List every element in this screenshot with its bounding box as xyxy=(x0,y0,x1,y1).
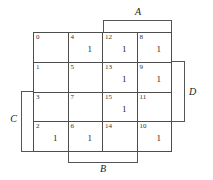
kmap-cell[interactable]: 5 xyxy=(69,63,104,93)
kmap-cell-value: 1 xyxy=(138,133,172,144)
kmap-cell-index: 13 xyxy=(105,63,112,72)
kmap-cell-index: 6 xyxy=(71,122,75,131)
kmap-cell-index: 7 xyxy=(71,93,75,102)
kmap-cell-value: 1 xyxy=(103,104,137,115)
kmap-cell-value: 1 xyxy=(138,74,172,85)
kmap-cell-value: 1 xyxy=(34,133,68,144)
kmap-cell-index: 12 xyxy=(105,33,112,42)
kmap-cell[interactable]: 3 xyxy=(34,93,69,123)
kmap-cell[interactable]: 1 xyxy=(34,63,69,93)
kmap-cell[interactable]: 0 xyxy=(34,33,69,63)
kmap-cell-value: 1 xyxy=(103,44,137,55)
karnaugh-map-diagram: A D C B 0 4 1 12 1 8 1 1 5 xyxy=(0,0,213,180)
bracket-label-a: A xyxy=(131,6,145,17)
bracket-variable-d xyxy=(171,61,185,122)
kmap-cell[interactable]: 9 1 xyxy=(138,63,173,93)
kmap-cell[interactable]: 2 1 xyxy=(34,122,69,152)
kmap-cell-index: 14 xyxy=(105,122,112,131)
kmap-cell-index: 2 xyxy=(36,122,40,131)
kmap-cell[interactable]: 11 xyxy=(138,93,173,123)
kmap-cell-index: 3 xyxy=(36,93,40,102)
bracket-variable-b xyxy=(68,151,138,163)
kmap-cell-index: 8 xyxy=(140,33,144,42)
kmap-cell[interactable]: 8 1 xyxy=(138,33,173,63)
kmap-cell-value: 1 xyxy=(69,44,103,55)
bracket-label-c: C xyxy=(8,113,19,124)
kmap-cell[interactable]: 12 1 xyxy=(103,33,138,63)
bracket-label-d: D xyxy=(187,86,198,97)
kmap-cell[interactable]: 4 1 xyxy=(69,33,104,63)
kmap-cell[interactable]: 13 1 xyxy=(103,63,138,93)
bracket-label-b: B xyxy=(96,163,110,174)
kmap-cell-index: 15 xyxy=(105,93,112,102)
kmap-cell-value: 1 xyxy=(69,133,103,144)
kmap-cell-value: 1 xyxy=(138,44,172,55)
kmap-cell-index: 10 xyxy=(140,122,147,131)
kmap-cell[interactable]: 6 1 xyxy=(69,122,104,152)
kmap-cell-index: 11 xyxy=(140,93,147,102)
kmap-cell-index: 0 xyxy=(36,33,40,42)
kmap-cell[interactable]: 10 1 xyxy=(138,122,173,152)
kmap-grid: 0 4 1 12 1 8 1 1 5 13 1 9 1 xyxy=(33,32,172,152)
kmap-cell-index: 9 xyxy=(140,63,144,72)
kmap-cell-index: 5 xyxy=(71,63,75,72)
kmap-cell-index: 1 xyxy=(36,63,40,72)
kmap-cell-value: 1 xyxy=(103,74,137,85)
kmap-cell[interactable]: 15 1 xyxy=(103,93,138,123)
kmap-cell-index: 4 xyxy=(71,33,75,42)
kmap-cell[interactable]: 7 xyxy=(69,93,104,123)
kmap-cell[interactable]: 14 xyxy=(103,122,138,152)
